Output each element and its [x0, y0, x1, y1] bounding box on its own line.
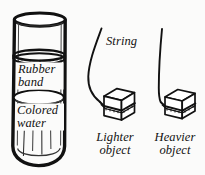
colored-water-leader-lines: [23, 129, 51, 157]
graduated-cylinder: [13, 13, 66, 166]
rubber-band-label-line2: band: [18, 76, 55, 89]
rubber-band-label: Rubber band: [18, 63, 55, 89]
buoyancy-diagram: Rubber band Colored water String Lighter…: [0, 0, 205, 175]
heavier-object-caption: Heavier object: [146, 131, 204, 157]
lighter-object-caption-line2: object: [86, 144, 144, 157]
colored-water-label-line1: Colored: [17, 104, 58, 117]
string-label: String: [106, 35, 137, 48]
colored-water-label-line2: water: [17, 117, 58, 130]
lighter-object-caption-line1: Lighter: [86, 131, 144, 144]
lighter-object-string: [88, 29, 101, 102]
heavier-object-caption-line2: object: [146, 144, 204, 157]
heavier-object-caption-line1: Heavier: [146, 131, 204, 144]
heavier-object-string: [159, 29, 162, 102]
colored-water-label: Colored water: [17, 104, 58, 130]
rubber-band-label-line1: Rubber: [18, 63, 55, 76]
heavier-object-group: [159, 29, 196, 119]
lighter-object-caption: Lighter object: [86, 131, 144, 157]
